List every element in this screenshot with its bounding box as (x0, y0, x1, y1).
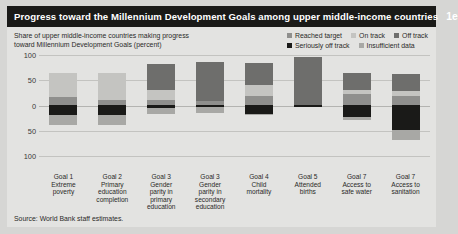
bar-column[interactable] (381, 51, 430, 171)
bar-segment-insufficient-data (147, 108, 175, 113)
bar-segment-off-track (147, 64, 175, 90)
legend-label: Insufficient data (367, 41, 415, 50)
legend-row: Seriously off trackInsufficient data (287, 41, 428, 50)
legend-label: Off track (402, 31, 428, 40)
bar-segment-seriously-off-track (98, 105, 126, 114)
stacked-bar[interactable] (245, 63, 273, 115)
chart-subtitle: Share of upper middle-income countries m… (14, 30, 189, 51)
legend-swatch-icon (287, 43, 292, 48)
bar-column[interactable] (186, 51, 235, 171)
chart-legend: Reached targetOn trackOff trackSeriously… (287, 30, 430, 51)
page-title: Progress toward the Millennium Developme… (14, 11, 438, 22)
stacked-bar[interactable] (49, 73, 77, 125)
stacked-bar[interactable] (343, 73, 371, 119)
figure-number-badge: 1e (438, 11, 458, 22)
stacked-bar[interactable] (294, 57, 322, 108)
bar-column[interactable] (39, 51, 88, 171)
legend-label: On track (359, 31, 385, 40)
y-axis-tick-label: 0 (16, 101, 36, 110)
x-axis-category-label: Goal 2 Primary education completion (88, 173, 137, 211)
stacked-bar[interactable] (147, 64, 175, 113)
bar-segment-seriously-off-track (245, 105, 273, 113)
bar-segment-reached-target (49, 97, 77, 106)
x-axis-category-label: Goal 4 Child mortality (235, 173, 284, 211)
legend-swatch-icon (351, 33, 356, 38)
bar-segment-reached-target (245, 96, 273, 105)
x-axis-category-label: Goal 3 Gender parity in primary educatio… (137, 173, 186, 211)
bar-segment-insufficient-data (343, 117, 371, 120)
bar-segment-seriously-off-track (343, 105, 371, 116)
bar-segment-seriously-off-track (392, 105, 420, 129)
bar-segment-off-track (343, 73, 371, 90)
bar-segment-off-track (196, 62, 224, 101)
bar-segment-seriously-off-track (49, 105, 77, 114)
bar-column[interactable] (137, 51, 186, 171)
bar-segment-reached-target (392, 96, 420, 105)
bar-group (39, 51, 430, 171)
x-axis-category-label: Goal 5 Attended births (283, 173, 332, 211)
bar-segment-insufficient-data (49, 115, 77, 125)
source-note: Source: World Bank staff estimates. (14, 215, 123, 222)
bar-column[interactable] (235, 51, 284, 171)
y-axis-tick-label: 50 (16, 76, 36, 85)
legend-swatch-icon (287, 33, 292, 38)
legend-swatch-icon (359, 43, 364, 48)
subtitle-legend-row: Share of upper middle-income countries m… (7, 27, 436, 51)
bar-segment-insufficient-data (245, 114, 273, 115)
bar-column[interactable] (332, 51, 381, 171)
x-axis-labels: Goal 1 Extreme povertyGoal 2 Primary edu… (39, 173, 430, 211)
x-axis-category-label: Goal 3 Gender parity in secondary educat… (186, 173, 235, 211)
legend-label: Reached target (295, 31, 342, 40)
bar-segment-on-track (147, 90, 175, 100)
chart-panel: Share of upper middle-income countries m… (7, 27, 436, 227)
bar-segment-off-track (245, 63, 273, 85)
x-axis-category-label: Goal 7 Access to sanitation (381, 173, 430, 211)
plot-area: 10050050100 (14, 51, 430, 171)
chart-title-bar: Progress toward the Millennium Developme… (7, 6, 436, 27)
bar-segment-seriously-off-track (294, 105, 322, 107)
y-axis-tick-label: 100 (16, 152, 36, 161)
bar-segment-off-track (294, 57, 322, 105)
bar-segment-insufficient-data (196, 107, 224, 112)
bar-segment-insufficient-data (98, 115, 126, 125)
bar-segment-reached-target (343, 94, 371, 105)
legend-label: Seriously off track (295, 41, 350, 50)
stacked-bar[interactable] (196, 62, 224, 113)
x-axis-category-label: Goal 7 Access to safe water (332, 173, 381, 211)
bar-column[interactable] (88, 51, 137, 171)
bar-column[interactable] (283, 51, 332, 171)
bar-segment-on-track (98, 73, 126, 101)
legend-item-seriously-off-track[interactable]: Seriously off track (287, 41, 350, 50)
y-axis-tick-label: 100 (16, 51, 36, 60)
bar-segment-off-track (392, 74, 420, 91)
legend-row: Reached targetOn trackOff track (287, 31, 428, 40)
bar-segment-insufficient-data (392, 130, 420, 140)
legend-item-reached-target[interactable]: Reached target (287, 31, 342, 40)
legend-item-insufficient-data[interactable]: Insufficient data (359, 41, 415, 50)
legend-swatch-icon (394, 33, 399, 38)
stacked-bar[interactable] (98, 73, 126, 125)
legend-item-off-track[interactable]: Off track (394, 31, 428, 40)
legend-item-on-track[interactable]: On track (351, 31, 385, 40)
x-axis-category-label: Goal 1 Extreme poverty (39, 173, 88, 211)
stacked-bar[interactable] (392, 74, 420, 140)
bar-segment-on-track (245, 85, 273, 96)
bar-segment-on-track (49, 73, 77, 97)
y-axis-tick-label: 50 (16, 126, 36, 135)
